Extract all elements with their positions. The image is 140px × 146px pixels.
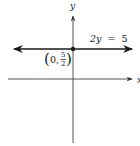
x-axis-label: x <box>137 75 140 85</box>
y-axis-label: y <box>69 1 76 11</box>
point-label-numerator: 5 <box>61 51 65 59</box>
equation-lhs: 2y <box>89 33 102 44</box>
line-equation-label: 2y = 5 <box>89 33 128 44</box>
equation-eq: = <box>107 33 115 44</box>
point-label-open-paren: ( <box>44 50 50 68</box>
point-label-comma: , <box>56 54 59 65</box>
coordinate-graph: y x 2y = 5 ( 0 , 5 2 ) <box>0 0 140 146</box>
point-label: ( 0 , 5 2 ) <box>44 50 72 68</box>
equation-rhs: 5 <box>121 33 127 44</box>
point-label-close-paren: ) <box>66 50 72 68</box>
point-label-denominator: 2 <box>61 60 65 68</box>
